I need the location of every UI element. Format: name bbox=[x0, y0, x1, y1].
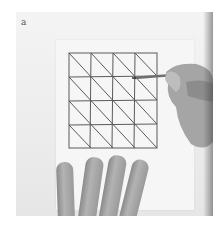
photograph: a bbox=[16, 12, 213, 216]
shadow bbox=[203, 12, 213, 216]
finger bbox=[56, 162, 75, 216]
